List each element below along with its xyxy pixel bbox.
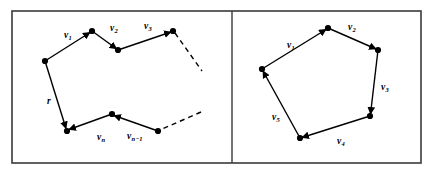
panel-open-polygonal-chain: v1 v2 v3 r vn vn−1 [42,21,202,143]
vertex-dot-p1 [89,28,95,34]
label-v5: v5 [272,112,281,123]
outer-frame-border [12,11,421,163]
vertex-dot-p6 [64,128,70,134]
vertex-dot-q0 [259,66,265,72]
label-v3: v3 [144,21,153,32]
label-v4: v4 [337,136,346,147]
label-vn-1: vn−1 [127,131,142,142]
vertex-dot-q1 [325,25,331,31]
segment-v4 [302,116,370,138]
segment-v5 [263,71,300,138]
figure-root: v1 v2 v3 r vn vn−1 [0,0,437,177]
vertex-dot-q2 [375,47,381,53]
label-v1: v1 [64,30,72,41]
vertex-dot-p0 [42,58,48,64]
vertex-dot-p5 [109,111,115,117]
segment-v2 [92,31,117,49]
figure-frame [12,11,421,163]
label-v2: v2 [348,22,357,33]
polygon-vertex-dots [259,25,381,141]
segment-v3 [118,32,171,50]
panel-closed-polygon: v1 v2 v3 v4 v5 [259,22,390,147]
segment-vn-1 [114,116,158,132]
vertex-dot-p2 [115,47,121,53]
vertex-dot-q3 [367,113,373,119]
label-v1: v1 [287,40,295,51]
segment-r [45,61,66,129]
segment-vn [69,114,112,130]
vector-diagram-svg: v1 v2 v3 r vn vn−1 [0,0,437,177]
vertex-dot-q4 [297,135,303,141]
chain-segments [45,31,202,131]
chain-labels: v1 v2 v3 r vn vn−1 [47,21,153,143]
segment-dashed-bottom [160,112,201,130]
label-v3: v3 [381,82,390,93]
segment-v3 [371,50,379,114]
label-vn: vn [97,132,106,143]
segment-dashed-top [175,33,202,71]
vertex-dot-p3 [170,28,176,34]
label-r: r [47,96,51,106]
label-v2: v2 [110,23,119,34]
vertex-dot-p4 [155,128,161,134]
